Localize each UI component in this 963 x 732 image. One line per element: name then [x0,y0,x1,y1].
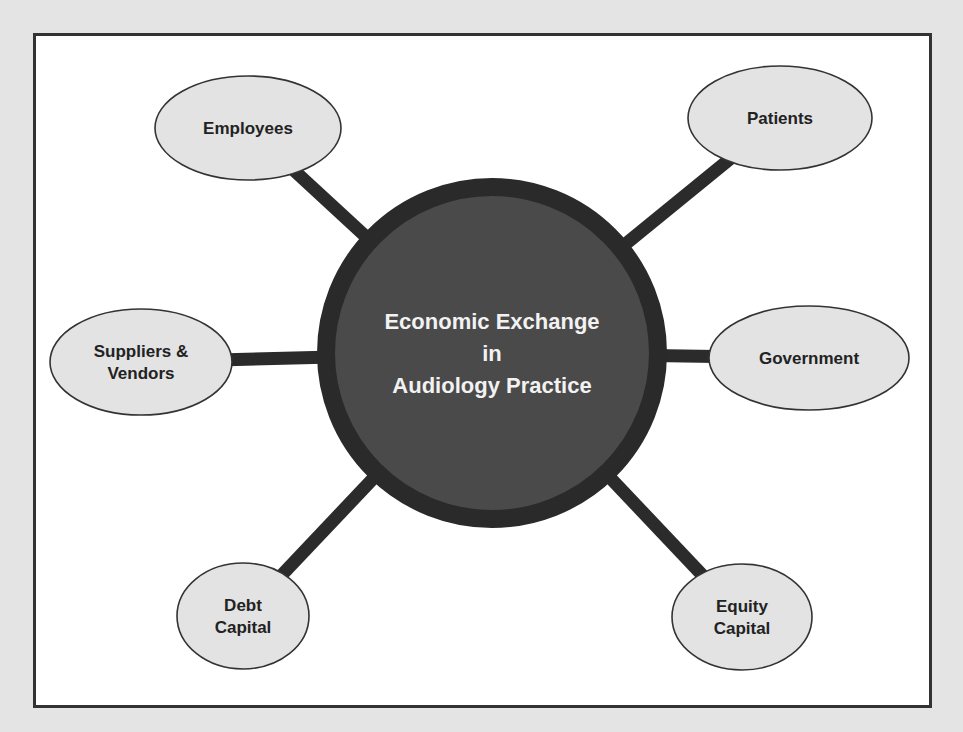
node-label: Suppliers & [94,342,188,361]
node-government: Government [709,306,909,410]
node-label: Vendors [107,364,174,383]
node-debt-capital: DebtCapital [177,563,309,669]
center-title-line: in [482,341,502,366]
node-ellipse [50,309,232,415]
node-patients: Patients [688,66,872,170]
node-label: Employees [203,119,293,138]
center-hub: Economic ExchangeinAudiology Practice [326,187,658,519]
node-suppliers-vendors: Suppliers &Vendors [50,309,232,415]
node-label: Capital [215,618,272,637]
node-employees: Employees [155,76,341,180]
node-label: Patients [747,109,813,128]
node-ellipse [177,563,309,669]
node-label: Government [759,349,859,368]
node-label: Debt [224,596,262,615]
center-title-line: Economic Exchange [384,309,599,334]
node-equity-capital: EquityCapital [672,564,812,670]
economic-exchange-diagram: Economic ExchangeinAudiology Practice Em… [0,0,963,732]
center-title-line: Audiology Practice [392,373,591,398]
node-label: Capital [714,619,771,638]
node-label: Equity [716,597,768,616]
node-ellipse [672,564,812,670]
